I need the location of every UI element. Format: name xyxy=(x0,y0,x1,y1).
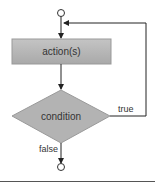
action-node: action(s) xyxy=(12,39,111,64)
false-label: false xyxy=(39,144,58,154)
end-node xyxy=(58,164,65,171)
start-node xyxy=(58,10,65,17)
action-label: action(s) xyxy=(42,46,80,57)
decision-node: condition xyxy=(12,90,110,143)
true-label: true xyxy=(118,104,134,114)
flowchart-canvas: action(s) condition true false xyxy=(0,0,155,187)
decision-label: condition xyxy=(41,111,81,122)
